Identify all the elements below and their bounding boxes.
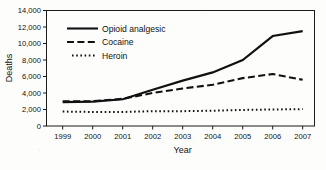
x-tick-label: 2002 [144, 132, 161, 141]
y-tick-label: 0 [37, 122, 41, 131]
deaths-by-drug-line-chart: 14,000 12,000 10,000 8,000 6,000 4,000 2… [0, 0, 326, 170]
x-axis-ticks [63, 126, 303, 130]
y-axis-tick-labels: 14,000 12,000 10,000 8,000 6,000 4,000 2… [18, 6, 41, 131]
legend-label-opioid-analgesic: Opioid analgesic [102, 24, 166, 34]
y-axis-ticks [43, 11, 47, 127]
x-tick-label: 2006 [264, 132, 281, 141]
x-axis-tick-labels: 1999 2000 2001 2002 2003 2004 2005 2006 … [54, 132, 311, 141]
y-tick-label: 10,000 [18, 39, 41, 48]
x-tick-label: 2005 [234, 132, 251, 141]
x-axis-title: Year [174, 145, 192, 155]
y-tick-label: 2,000 [22, 105, 41, 114]
x-tick-label: 2000 [84, 132, 101, 141]
chart-legend: Opioid analgesic Cocaine Heroin [67, 24, 166, 61]
legend-label-cocaine: Cocaine [102, 37, 134, 47]
y-tick-label: 12,000 [18, 23, 41, 32]
series-line-cocaine [63, 74, 303, 101]
series-line-opioid-analgesic [63, 31, 303, 102]
x-tick-label: 2003 [174, 132, 191, 141]
y-tick-label: 6,000 [22, 72, 41, 81]
y-tick-label: 4,000 [22, 89, 41, 98]
y-axis-title: Deaths [4, 53, 14, 82]
x-tick-label: 1999 [54, 132, 71, 141]
y-tick-label: 14,000 [18, 6, 41, 15]
x-tick-label: 2001 [114, 132, 131, 141]
series-line-heroin [63, 109, 303, 112]
y-tick-label: 8,000 [22, 56, 41, 65]
x-tick-label: 2007 [294, 132, 311, 141]
x-tick-label: 2004 [204, 132, 221, 141]
legend-label-heroin: Heroin [102, 51, 128, 61]
